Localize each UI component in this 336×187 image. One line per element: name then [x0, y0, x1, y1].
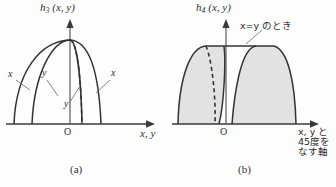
panel-a-caption: (a) [70, 164, 82, 176]
leader-line-y-dashed [70, 86, 80, 102]
panel-a-label-x-right: x [111, 68, 115, 79]
curve-dashed-y [70, 40, 82, 124]
h-subscript: 4 [202, 6, 206, 15]
h-arguments: (x, y) [208, 1, 231, 13]
panel-b-callout-label: x=y のとき [240, 21, 292, 31]
shaded-region-left [178, 46, 225, 124]
panel-a-label-y-left: y [42, 68, 46, 79]
panel-b: h4 (x, y) x=y のとき O x, y と 45度を なす軸 (b) [168, 0, 336, 187]
shaded-region-right [232, 46, 296, 124]
leader-line-x-left [16, 80, 30, 90]
figure-root: h3 (x, y) x y x y O x, y (a) [0, 0, 336, 187]
panel-a-horizontal-axis-label: x, y [140, 128, 155, 140]
panel-b-origin-label: O [220, 127, 227, 138]
axis-label-line-3: なす軸 [298, 147, 330, 157]
panel-b-vertical-axis-label: h4 (x, y) [196, 2, 231, 15]
curve-outer-x [14, 40, 101, 124]
panel-a-label-y-dashed: y [64, 99, 68, 110]
panel-a-vertical-axis-label: h3 (x, y) [40, 2, 75, 15]
panel-b-horizontal-axis-label: x, y と 45度を なす軸 [298, 127, 330, 157]
panel-a: h3 (x, y) x y x y O x, y (a) [0, 0, 168, 187]
h-subscript: 3 [46, 6, 50, 15]
h-arguments: (x, y) [52, 1, 75, 13]
leader-line-y-left [47, 80, 58, 96]
panel-a-origin-label: O [64, 127, 71, 138]
panel-a-x-axis [6, 120, 155, 128]
panel-a-label-x-left: x [8, 69, 12, 80]
callout-leader-line [246, 30, 262, 44]
panel-b-caption: (b) [238, 164, 251, 176]
panel-a-graphic [0, 0, 168, 187]
